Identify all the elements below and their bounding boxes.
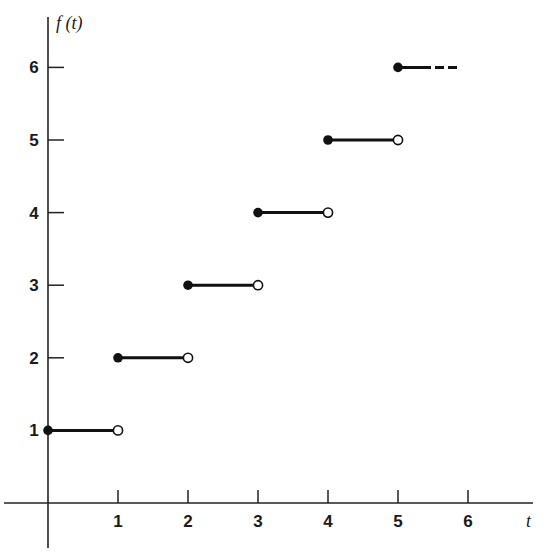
open-endpoint-circle — [113, 426, 122, 435]
axis-labels: f (t) t — [56, 13, 532, 531]
step-function-chart: 123456123456 f (t) t — [0, 0, 555, 560]
step-segment — [253, 208, 332, 218]
step-segment — [113, 353, 192, 363]
y-tick-label: 4 — [29, 204, 39, 223]
y-axis-label: f (t) — [56, 13, 83, 34]
step-segment — [183, 280, 262, 290]
open-endpoint-circle — [323, 208, 332, 217]
x-tick-label: 6 — [463, 512, 472, 531]
open-endpoint-circle — [183, 353, 192, 362]
step-segment — [323, 135, 402, 145]
axes — [4, 17, 533, 548]
y-tick-label: 3 — [29, 276, 38, 295]
x-tick-label: 3 — [253, 512, 262, 531]
x-tick-label: 2 — [183, 512, 192, 531]
closed-endpoint-dot — [393, 63, 403, 73]
closed-endpoint-dot — [183, 280, 193, 290]
axis-ticks: 123456123456 — [29, 58, 472, 531]
y-tick-label: 5 — [29, 131, 38, 150]
closed-endpoint-dot — [113, 353, 123, 363]
y-tick-label: 2 — [29, 349, 38, 368]
y-tick-label: 6 — [29, 58, 38, 77]
x-tick-label: 1 — [113, 512, 122, 531]
step-series — [43, 63, 457, 436]
open-endpoint-circle — [253, 281, 262, 290]
x-axis-label: t — [526, 511, 532, 531]
open-endpoint-circle — [393, 135, 402, 144]
closed-endpoint-dot — [253, 208, 263, 218]
step-segment — [43, 426, 122, 436]
closed-endpoint-dot — [323, 135, 333, 145]
step-segment — [393, 63, 457, 73]
y-tick-label: 1 — [29, 421, 38, 440]
closed-endpoint-dot — [43, 426, 53, 436]
x-tick-label: 4 — [323, 512, 333, 531]
x-tick-label: 5 — [393, 512, 402, 531]
